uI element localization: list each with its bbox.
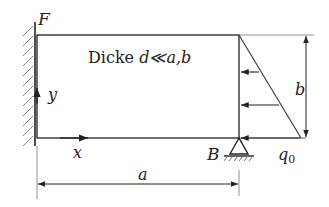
fixed-wall	[23, 22, 35, 146]
support-label-b: B	[206, 144, 220, 164]
load-label: q0	[278, 145, 295, 166]
thickness-text: Dicke d≪a,b	[88, 48, 191, 67]
plate-diagram: F Dicke d≪a,b y x q0 b	[0, 0, 329, 207]
dimension-b-label: b	[295, 80, 305, 99]
y-axis-label: y	[47, 85, 58, 104]
dimension-a-label: a	[138, 165, 148, 184]
corner-label-f: F	[37, 9, 51, 29]
pin-support	[224, 138, 254, 161]
x-axis-label: x	[73, 143, 82, 162]
